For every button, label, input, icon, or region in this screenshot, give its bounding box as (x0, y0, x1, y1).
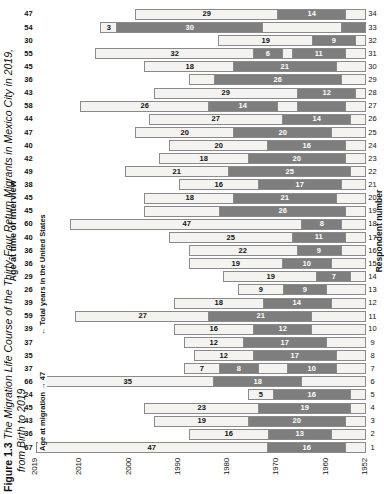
respondent-column[interactable]: 2016 (36, 139, 366, 152)
life-course-bar[interactable]: 26 (189, 74, 366, 85)
respondent-column[interactable]: 2714 (36, 113, 366, 126)
segment-mexico: 25 (170, 233, 292, 242)
respondent-column[interactable]: 2914 (36, 8, 366, 21)
segment-mexico: 18 (175, 299, 263, 308)
life-course-bar[interactable]: 2912 (154, 88, 366, 99)
segment-mexico (350, 115, 365, 124)
respondent-column[interactable]: 4716 (36, 441, 366, 454)
respondent-column[interactable]: 2511 (36, 231, 366, 244)
life-course-bar[interactable]: 1821 (144, 193, 366, 204)
respondent-column[interactable]: 2614 (36, 100, 366, 113)
life-course-bar[interactable]: 2614 (80, 101, 366, 112)
respondent-column[interactable]: 2020 (36, 126, 366, 139)
life-course-bar[interactable]: 99 (238, 284, 366, 295)
life-course-bar[interactable]: 1617 (179, 179, 366, 190)
life-course-bar[interactable]: 7810 (184, 363, 366, 374)
life-course-bar[interactable]: 2020 (135, 127, 366, 138)
life-course-bar[interactable]: 26 (144, 206, 366, 217)
respondent-column[interactable]: 1613 (36, 428, 366, 441)
life-course-bar[interactable]: 1814 (174, 298, 366, 309)
respondent-column[interactable]: 2721 (36, 310, 366, 323)
life-course-bar[interactable]: 2714 (149, 114, 366, 125)
segment-years-label: 21 (281, 194, 289, 202)
segment-years-label: 21 (281, 63, 289, 71)
age-value: 66 (24, 377, 32, 386)
segment-mexico: 22 (190, 246, 297, 255)
segment-mexico (311, 325, 365, 334)
respondent-column[interactable]: 1814 (36, 297, 366, 310)
age-value: 40 (24, 233, 32, 242)
segment-years-label: 12 (278, 326, 286, 334)
year-tick-label: 2000 (124, 458, 133, 492)
respondent-column[interactable]: 32611 (36, 47, 366, 60)
respondent-column[interactable]: 26 (36, 205, 366, 218)
segment-years-label: 17 (291, 352, 299, 360)
segment-years-label: 23 (197, 404, 205, 412)
segment-united-states: 16 (267, 141, 345, 150)
respondent-column[interactable]: 197 (36, 270, 366, 283)
segment-united-states: 21 (233, 194, 335, 203)
segment-united-states: 14 (263, 299, 331, 308)
respondent-column[interactable]: 229 (36, 244, 366, 257)
respondent-column[interactable]: 1612 (36, 323, 366, 336)
respondent-column[interactable]: 1920 (36, 415, 366, 428)
segment-mexico: 12 (195, 351, 253, 360)
respondent-column[interactable]: 1820 (36, 152, 366, 165)
life-course-bar[interactable]: 2016 (169, 140, 366, 151)
respondent-column[interactable]: 26 (36, 73, 366, 86)
respondent-column[interactable]: 2319 (36, 402, 366, 415)
segment-united-states: 9 (283, 285, 327, 294)
segment-mexico (341, 220, 365, 229)
life-course-bar[interactable]: 2125 (125, 166, 366, 177)
age-label-cell: 43 (22, 415, 35, 428)
respondent-column[interactable]: 2912 (36, 87, 366, 100)
respondent-column[interactable]: 1910 (36, 257, 366, 270)
respondent-column[interactable]: 1217 (36, 349, 366, 362)
age-value: 43 (24, 417, 32, 426)
life-course-bar[interactable]: 516 (248, 389, 366, 400)
respondent-column[interactable]: 3518 (36, 375, 366, 388)
segment-united-states: 9 (312, 36, 356, 45)
life-course-bar[interactable]: 2319 (144, 403, 366, 414)
life-course-bar[interactable]: 1920 (154, 416, 366, 427)
segment-years-label: 19 (261, 37, 269, 45)
life-course-bar[interactable]: 1821 (144, 61, 366, 72)
life-course-bar[interactable]: 1910 (189, 258, 366, 269)
respondent-column[interactable]: 478 (36, 218, 366, 231)
life-course-bar[interactable]: 32611 (95, 48, 366, 59)
respondent-column[interactable]: 1821 (36, 192, 366, 205)
respondent-column[interactable]: 1617 (36, 178, 366, 191)
respondent-column[interactable]: 1217 (36, 336, 366, 349)
segment-years-label: 7 (332, 273, 336, 281)
segment-mexico: 7 (185, 364, 219, 373)
life-course-bar[interactable]: 1217 (184, 337, 366, 348)
respondent-column[interactable]: 1821 (36, 60, 366, 73)
life-course-bar[interactable]: 1217 (194, 350, 366, 361)
respondent-column[interactable]: 330 (36, 21, 366, 34)
respondent-column[interactable]: 199 (36, 34, 366, 47)
age-value: 35 (24, 351, 32, 360)
segment-years-label: 26 (278, 207, 286, 215)
segment-united-states: 6 (253, 49, 282, 58)
life-course-bar[interactable]: 1820 (159, 153, 366, 164)
life-course-bar[interactable]: 2914 (135, 9, 366, 20)
life-course-bar[interactable]: 330 (100, 22, 366, 33)
life-course-bar[interactable]: 2511 (169, 232, 366, 243)
life-course-bar[interactable]: 197 (223, 271, 366, 282)
life-course-bar[interactable]: 3518 (41, 376, 366, 387)
life-course-bar[interactable]: 4716 (36, 442, 366, 453)
age-value: 67 (24, 443, 32, 452)
life-course-bar[interactable]: 1613 (189, 429, 366, 440)
life-course-bar[interactable]: 1612 (174, 324, 366, 335)
respondent-column[interactable]: 2125 (36, 165, 366, 178)
segment-mexico (355, 36, 365, 45)
life-course-bar[interactable]: 199 (218, 35, 366, 46)
segment-years-label: 20 (278, 129, 286, 137)
life-course-bar[interactable]: 2721 (75, 311, 366, 322)
life-course-bar[interactable]: 229 (189, 245, 366, 256)
respondent-column[interactable]: 7810 (36, 362, 366, 375)
respondent-column[interactable]: 99 (36, 283, 366, 296)
segment-years-label: 17 (281, 339, 289, 347)
life-course-bar[interactable]: 478 (70, 219, 366, 230)
respondent-column[interactable]: 516 (36, 388, 366, 401)
